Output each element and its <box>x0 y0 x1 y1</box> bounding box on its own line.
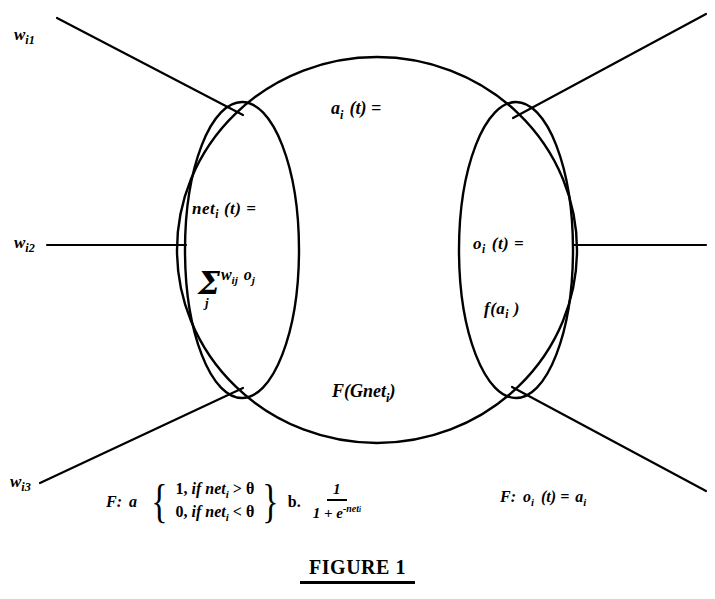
w-i3-subscript: i3 <box>21 480 31 494</box>
activation-label: ai(t) = <box>331 99 381 121</box>
net-suffix: (t) = <box>219 199 256 218</box>
fraction-denominator: 1 + e-neti <box>309 501 365 522</box>
output-line-bottom <box>512 387 706 491</box>
case-2-value: 0, <box>176 503 188 520</box>
formula-right-result: a <box>569 488 583 505</box>
w-i1-subscript: i1 <box>25 33 35 47</box>
case-1-value: 1, <box>176 480 188 497</box>
figure-canvas: wi1 wi2 wi3 neti(t) = Σ j wijoj ai(t) = … <box>0 0 715 599</box>
output-value: f(ai ) <box>484 300 520 321</box>
w-i2-subscript: i2 <box>25 241 35 255</box>
summation-terms: wijoj <box>221 266 255 286</box>
right-brace-icon: } <box>262 478 278 525</box>
weight-base: w <box>221 266 232 283</box>
input-line-w-i3 <box>40 388 243 483</box>
figure-caption: FIGURE 1 <box>0 556 715 579</box>
formula-right-prefix: F: <box>500 488 516 505</box>
sigma-group: Σ j <box>198 268 220 299</box>
formula-left-prefix: F: <box>106 493 122 511</box>
formula-left-case-tag: a <box>127 493 143 511</box>
transfer-function-right: F:oi(t) =ai <box>500 488 586 508</box>
sigma-index: j <box>205 295 209 311</box>
output-base: o <box>473 234 482 253</box>
output-value-prefix: f(a <box>484 299 505 318</box>
w-i1-base: w <box>14 25 25 44</box>
output-term-base: o <box>238 266 252 283</box>
case-2-sub: i <box>226 511 229 523</box>
weight-subscript: ij <box>232 274 238 286</box>
formula-right-result-subscript: i <box>583 496 586 508</box>
activation-value: F(Gneti) <box>332 382 395 404</box>
output-term-subscript: j <box>252 274 255 286</box>
label-w-i1: wi1 <box>14 26 35 47</box>
fraction-numerator: 1 <box>327 481 347 501</box>
case-list: 1, if neti > θ 0, if neti < θ <box>176 480 255 523</box>
label-w-i3: wi3 <box>10 473 31 494</box>
summation-expression: Σ j wijoj <box>198 268 254 299</box>
caption-underline <box>300 581 415 584</box>
w-i3-base: w <box>10 472 21 491</box>
case-row-1: 1, if neti > θ <box>176 480 255 500</box>
formula-right-middle: (t) = <box>534 488 569 505</box>
activation-value-suffix: ) <box>389 381 395 401</box>
input-line-w-i1 <box>57 18 243 115</box>
left-brace-icon: { <box>151 478 167 525</box>
activation-value-text: F(Gnet <box>332 381 386 401</box>
case-1-sub: i <box>226 488 229 500</box>
net-base: net <box>192 199 215 218</box>
formula-left-alt-tag: b. <box>287 493 304 511</box>
case-1-op: > <box>233 480 242 497</box>
sigmoid-fraction: 1 1 + e-neti <box>309 481 365 523</box>
case-1-cond: if net <box>192 480 226 497</box>
output-value-suffix: ) <box>509 299 520 318</box>
transfer-function-left: F: a { 1, if neti > θ 0, if neti < θ } b… <box>106 478 365 525</box>
label-w-i2: wi2 <box>14 234 35 255</box>
net-input-label: neti(t) = <box>192 200 256 221</box>
output-label: oi(t) = <box>473 235 524 256</box>
denominator-prefix: 1 + e <box>313 505 343 521</box>
denominator-exponent-sub: i <box>359 506 361 514</box>
denominator-exponent: -net <box>343 503 359 514</box>
case-2-op: < <box>233 503 242 520</box>
activation-base: a <box>331 98 340 118</box>
net-input-ellipse <box>185 102 299 398</box>
output-line-top <box>513 14 706 118</box>
output-suffix: (t) = <box>486 234 524 253</box>
formula-right-base: o <box>516 488 531 505</box>
case-1-theta: θ <box>246 480 254 497</box>
case-row-2: 0, if neti < θ <box>176 503 255 523</box>
activation-suffix: (t) = <box>343 98 381 118</box>
case-2-theta: θ <box>246 503 254 520</box>
w-i2-base: w <box>14 233 25 252</box>
case-2-cond: if net <box>192 503 226 520</box>
